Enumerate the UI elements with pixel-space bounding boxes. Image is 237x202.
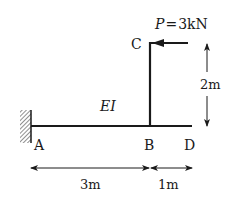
node-label-C: C (131, 36, 142, 52)
fixed-support-hatch (20, 110, 31, 143)
frame-diagram: P=3kN C A B D EI 2m 3m 1m (0, 0, 237, 202)
load-symbol: P (154, 16, 165, 32)
load-equals: = (165, 16, 177, 32)
dim-BD-label: 1m (158, 177, 179, 192)
dim-BC-label: 2m (200, 77, 221, 92)
node-label-A: A (33, 137, 45, 153)
load-label: P=3kN (154, 16, 208, 32)
node-label-D: D (184, 137, 195, 153)
dim-AB-label: 3m (80, 177, 101, 192)
stiffness-label: EI (99, 98, 116, 114)
load-value: 3kN (178, 16, 208, 32)
node-label-B: B (144, 137, 154, 153)
